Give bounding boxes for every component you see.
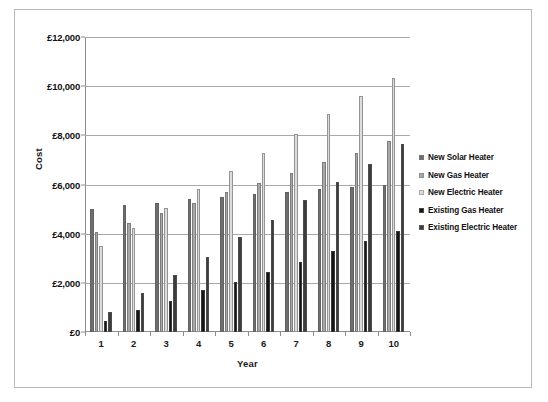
legend-swatch-icon xyxy=(419,225,424,230)
x-tick-mark xyxy=(410,332,411,336)
bar-existing-electric-heater-year-8 xyxy=(336,182,340,332)
y-tick-label: £8,000 xyxy=(52,130,80,141)
x-axis-title: Year xyxy=(85,358,410,369)
bar-existing-gas-heater-year-9 xyxy=(364,241,368,332)
bar-group xyxy=(123,37,145,332)
y-tick-mark xyxy=(81,37,85,38)
bar-new-solar-heater-year-10 xyxy=(383,185,387,333)
legend-swatch-icon xyxy=(419,173,424,178)
x-tick-label-5: 5 xyxy=(229,338,234,349)
y-tick-label: £0 xyxy=(70,327,80,338)
legend-label: Existing Gas Heater xyxy=(428,206,503,215)
plot-area: £0£2,000£4,000£6,000£8,000£10,000£12,000… xyxy=(85,37,410,332)
legend-swatch-icon xyxy=(419,208,424,213)
legend-swatch-icon xyxy=(419,190,424,195)
bar-new-gas-heater-year-6 xyxy=(257,183,261,332)
bar-new-solar-heater-year-5 xyxy=(220,197,224,332)
bar-existing-electric-heater-year-5 xyxy=(238,237,242,332)
bar-existing-electric-heater-year-3 xyxy=(173,275,177,332)
x-tick-label-6: 6 xyxy=(261,338,266,349)
x-tick-mark xyxy=(118,332,119,336)
bar-group xyxy=(188,37,210,332)
bar-existing-gas-heater-year-1 xyxy=(104,321,108,332)
bar-existing-electric-heater-year-2 xyxy=(141,293,145,332)
bar-group xyxy=(285,37,307,332)
y-axis-title: Cost xyxy=(33,148,44,170)
bar-new-gas-heater-year-8 xyxy=(322,162,326,332)
x-tick-mark xyxy=(215,332,216,336)
bar-group xyxy=(155,37,177,332)
bar-existing-gas-heater-year-7 xyxy=(299,262,303,332)
x-tick-mark xyxy=(313,332,314,336)
bar-new-electric-heater-year-8 xyxy=(327,114,331,332)
bar-existing-gas-heater-year-5 xyxy=(234,282,238,332)
bar-existing-gas-heater-year-10 xyxy=(396,231,400,332)
x-tick-mark xyxy=(280,332,281,336)
bar-new-electric-heater-year-6 xyxy=(262,153,266,332)
y-tick-label: £2,000 xyxy=(52,277,80,288)
x-tick-mark xyxy=(378,332,379,336)
legend-item-new-solar-heater[interactable]: New Solar Heater xyxy=(419,153,531,162)
y-tick-mark xyxy=(81,86,85,87)
bar-new-gas-heater-year-10 xyxy=(387,141,391,332)
bar-existing-electric-heater-year-9 xyxy=(368,164,372,332)
y-tick-label: £6,000 xyxy=(52,179,80,190)
y-tick-label: £12,000 xyxy=(47,32,80,43)
bar-group xyxy=(220,37,242,332)
bar-new-solar-heater-year-9 xyxy=(350,187,354,332)
legend-item-existing-electric-heater[interactable]: Existing Electric Heater xyxy=(419,223,531,232)
legend-item-new-electric-heater[interactable]: New Electric Heater xyxy=(419,188,531,197)
bar-existing-gas-heater-year-6 xyxy=(266,272,270,332)
bar-new-gas-heater-year-4 xyxy=(192,203,196,332)
bar-group xyxy=(318,37,340,332)
bar-group xyxy=(350,37,372,332)
legend-label: New Electric Heater xyxy=(428,188,503,197)
legend-label: New Gas Heater xyxy=(428,171,489,180)
x-tick-label-1: 1 xyxy=(99,338,104,349)
chart-frame: Cost £0£2,000£4,000£6,000£8,000£10,000£1… xyxy=(14,9,532,388)
y-tick-mark xyxy=(81,282,85,283)
bar-existing-electric-heater-year-7 xyxy=(303,200,307,332)
bar-new-gas-heater-year-3 xyxy=(160,213,164,332)
legend-swatch-icon xyxy=(419,155,424,160)
y-tick-label: £4,000 xyxy=(52,228,80,239)
bar-new-gas-heater-year-1 xyxy=(95,232,99,332)
bar-new-electric-heater-year-2 xyxy=(132,228,136,332)
bar-existing-gas-heater-year-3 xyxy=(169,301,173,332)
bar-existing-electric-heater-year-10 xyxy=(401,144,405,332)
bar-new-solar-heater-year-6 xyxy=(253,194,257,332)
bar-existing-electric-heater-year-1 xyxy=(108,312,112,332)
bar-new-electric-heater-year-7 xyxy=(294,134,298,332)
x-tick-label-2: 2 xyxy=(131,338,136,349)
x-tick-label-3: 3 xyxy=(164,338,169,349)
bar-new-electric-heater-year-9 xyxy=(359,96,363,332)
bar-new-solar-heater-year-4 xyxy=(188,199,192,332)
bar-existing-gas-heater-year-2 xyxy=(136,310,140,332)
y-tick-label: £10,000 xyxy=(47,81,80,92)
bar-new-electric-heater-year-4 xyxy=(197,189,201,332)
bar-new-solar-heater-year-8 xyxy=(318,189,322,332)
bar-existing-electric-heater-year-6 xyxy=(271,220,275,332)
x-tick-label-8: 8 xyxy=(326,338,331,349)
legend-item-new-gas-heater[interactable]: New Gas Heater xyxy=(419,171,531,180)
x-tick-mark xyxy=(183,332,184,336)
y-tick-mark xyxy=(81,233,85,234)
bar-new-solar-heater-year-3 xyxy=(155,203,159,332)
legend-label: Existing Electric Heater xyxy=(428,223,517,232)
legend-item-existing-gas-heater[interactable]: Existing Gas Heater xyxy=(419,206,531,215)
bar-new-gas-heater-year-2 xyxy=(127,223,131,332)
bar-new-gas-heater-year-7 xyxy=(290,173,294,332)
x-tick-mark xyxy=(248,332,249,336)
bar-existing-gas-heater-year-8 xyxy=(331,251,335,332)
x-tick-label-10: 10 xyxy=(388,338,399,349)
x-tick-mark xyxy=(85,332,86,336)
bar-new-electric-heater-year-3 xyxy=(164,208,168,332)
bar-group xyxy=(253,37,275,332)
bar-new-gas-heater-year-9 xyxy=(355,153,359,332)
y-tick-mark xyxy=(81,184,85,185)
legend-label: New Solar Heater xyxy=(428,153,494,162)
bar-group xyxy=(90,37,112,332)
x-tick-label-4: 4 xyxy=(196,338,201,349)
y-tick-mark xyxy=(81,135,85,136)
bar-new-electric-heater-year-1 xyxy=(99,246,103,332)
